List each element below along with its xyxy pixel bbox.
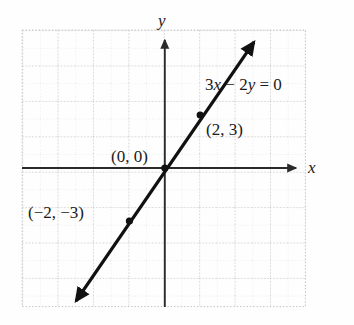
line-graph-figure: y x 3x − 2y = 0 (2, 3) (0, 0) (−2, −3) — [0, 0, 354, 325]
point-label-neg2-neg3: (−2, −3) — [28, 204, 84, 221]
equation-rhs: = 0 — [259, 75, 281, 94]
equation-operator: − — [221, 75, 239, 94]
x-axis-label: x — [308, 159, 316, 176]
equation-coef-x: 3 — [205, 75, 214, 94]
point-marker-neg2-neg3 — [126, 217, 133, 224]
equation-coef-y: 2 — [239, 75, 248, 94]
equation-label: 3x − 2y = 0 — [205, 76, 282, 93]
point-label-2-3: (2, 3) — [206, 121, 243, 138]
point-marker-2-3 — [197, 111, 204, 118]
point-label-0-0: (0, 0) — [111, 148, 148, 165]
equation-var-x: x — [214, 75, 222, 94]
coordinate-plane — [0, 0, 354, 325]
y-axis-label: y — [158, 12, 166, 29]
point-marker-0-0 — [161, 164, 168, 171]
